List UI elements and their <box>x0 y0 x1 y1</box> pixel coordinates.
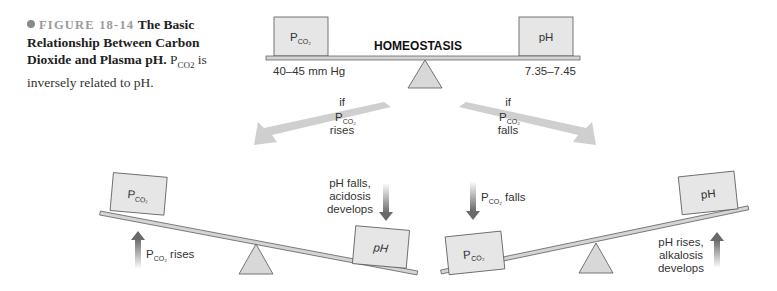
alkalosis-label-line1: pH rises, <box>658 236 703 248</box>
acidosis-label-line3: develops <box>327 203 373 215</box>
homeostasis-label: HOMEOSTASIS <box>374 39 462 53</box>
fulcrum-icon <box>239 244 273 274</box>
pco2-box <box>445 231 505 275</box>
pco2-box <box>274 17 328 56</box>
fulcrum-icon <box>579 243 613 273</box>
ph-range: 7.35–7.45 <box>525 65 576 77</box>
homeostasis-scale: PCO₂ pH HOMEOSTASIS 40–45 mm Hg 7.35–7.4… <box>266 17 580 88</box>
fulcrum-icon <box>408 60 442 88</box>
branch-left: if PCO₂ rises <box>254 96 391 145</box>
alkalosis-label-line2: alkalosis <box>659 249 703 261</box>
pco2-range: 40–45 mm Hg <box>273 65 345 77</box>
pco2-rises-label: PCO₂ rises <box>146 248 195 262</box>
branch-right: if PCO₂ falls <box>459 96 596 145</box>
acidosis-label-line2: acidosis <box>329 190 371 202</box>
branch-right-falls: falls <box>498 124 519 136</box>
pco2-falls-label: PCO₂ falls <box>481 191 526 205</box>
diagonal-arrow-left-icon <box>254 102 391 145</box>
branch-right-if: if <box>505 96 512 108</box>
branch-left-if: if <box>339 96 346 108</box>
alkalosis-scale: PCO₂ pH PCO₂ falls pH rises, alkalosis d… <box>441 171 749 275</box>
ph-box-label: pH <box>700 187 716 200</box>
branch-left-rises: rises <box>330 124 355 136</box>
down-arrow-icon <box>379 183 393 221</box>
acidosis-label-line1: pH falls, <box>329 177 371 189</box>
up-arrow-icon <box>131 231 145 269</box>
pco2-box <box>110 173 167 216</box>
down-arrow-icon <box>466 181 480 220</box>
acidosis-scale: PCO₂ pH PCO₂ rises pH falls, acidosis de… <box>100 173 418 275</box>
diagonal-arrow-right-icon <box>459 102 596 145</box>
up-arrow-icon <box>710 232 724 268</box>
ph-box-label: pH <box>372 241 389 254</box>
co2-ph-diagram: PCO₂ pH HOMEOSTASIS 40–45 mm Hg 7.35–7.4… <box>0 0 777 291</box>
ph-box-label: pH <box>539 31 554 43</box>
alkalosis-label-line3: develops <box>658 262 704 274</box>
beam <box>266 56 580 60</box>
